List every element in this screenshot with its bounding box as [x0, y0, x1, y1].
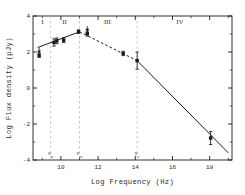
data-point-marker: [62, 38, 65, 41]
sed-plot: 1012141618420-2-4IIIIIIIVνaνmνcLog Frequ…: [0, 0, 245, 195]
data-point-marker: [209, 136, 212, 139]
data-point-marker: [37, 54, 40, 57]
data-point-marker: [55, 39, 58, 42]
data-point-marker: [86, 32, 89, 35]
y-tick-label: 4: [26, 13, 30, 20]
x-tick-label: 12: [94, 164, 102, 171]
x-tick-label: 10: [57, 164, 65, 171]
y-tick-label: 0: [26, 85, 30, 92]
break-frequency-label-nu_a: νa: [48, 149, 54, 159]
region-label-III: III: [104, 18, 112, 26]
break-frequency-label-nu_m: νm: [76, 149, 82, 159]
x-tick-label: 18: [206, 164, 214, 171]
y-tick-label: -4: [23, 157, 31, 164]
series-self-absorbed-rise: [38, 32, 80, 48]
data-point-marker: [77, 30, 80, 33]
data-point-marker: [135, 59, 138, 62]
y-axis-title: Log Flux density (μJy): [5, 37, 13, 139]
x-tick-label: 16: [169, 164, 177, 171]
data-point-marker: [122, 52, 125, 55]
series-cooling-decline: [137, 61, 228, 153]
region-label-I: I: [41, 18, 44, 26]
x-tick-label: 14: [132, 164, 140, 171]
spectrum-figure: 1012141618420-2-4IIIIIIIVνaνmνcLog Frequ…: [0, 0, 245, 195]
y-tick-label: -2: [23, 121, 31, 128]
region-label-IV: IV: [176, 18, 183, 26]
x-axis-title: Log Frequency (Hz): [91, 178, 174, 186]
region-label-II: II: [62, 18, 67, 26]
y-tick-label: 2: [26, 49, 30, 56]
